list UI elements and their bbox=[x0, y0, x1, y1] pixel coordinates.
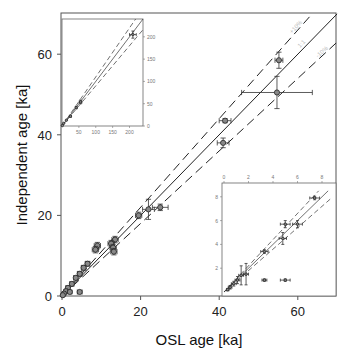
inset-full-range: 50100150200050100150200 bbox=[61, 19, 155, 135]
data-point bbox=[112, 237, 117, 242]
x-tick-label: 40 bbox=[212, 304, 226, 319]
data-point bbox=[296, 223, 299, 226]
data-point bbox=[221, 140, 226, 145]
data-point bbox=[276, 58, 281, 63]
data-point bbox=[222, 118, 227, 123]
data-point bbox=[226, 288, 229, 291]
inset-y-tick-label: 200 bbox=[147, 34, 156, 40]
data-point bbox=[65, 119, 67, 121]
data-point bbox=[111, 249, 116, 254]
x-axis-title: OSL age [ka] bbox=[156, 331, 243, 348]
data-point bbox=[158, 205, 163, 210]
inset-x-tick-label: 2 bbox=[247, 174, 250, 180]
x-tick-label: 0 bbox=[58, 304, 65, 319]
data-point bbox=[236, 279, 239, 282]
data-point bbox=[75, 107, 77, 109]
data-point bbox=[245, 273, 248, 276]
data-point bbox=[79, 101, 81, 103]
inset-x-tick-label: 6 bbox=[296, 174, 299, 180]
data-point bbox=[81, 265, 86, 270]
y-axis-title: Independent age [ka] bbox=[13, 85, 30, 226]
data-point bbox=[60, 293, 65, 298]
data-point bbox=[282, 237, 285, 240]
data-point bbox=[67, 289, 72, 294]
inset-x-tick-label: 0 bbox=[223, 174, 226, 180]
y-tick-label: 60 bbox=[38, 47, 52, 62]
data-point bbox=[263, 250, 266, 253]
data-point bbox=[263, 279, 266, 282]
inset-young-samples: 024682468 bbox=[215, 174, 336, 296]
data-point bbox=[274, 90, 279, 95]
inset-x-tick-label: 4 bbox=[272, 174, 275, 180]
inset-y-tick-label: 8 bbox=[215, 194, 218, 200]
data-point bbox=[136, 213, 141, 218]
inset-x-tick-label: 200 bbox=[125, 129, 134, 135]
inset-y-tick-label: 100 bbox=[147, 78, 156, 84]
data-point bbox=[61, 124, 63, 126]
x-tick-label: 60 bbox=[291, 304, 305, 319]
inset-y-tick-label: 150 bbox=[147, 56, 156, 62]
inset-y-tick-label: 6 bbox=[215, 218, 218, 224]
inset-x-tick-label: 150 bbox=[108, 129, 117, 135]
data-point bbox=[77, 289, 82, 294]
inset-x-tick-label: 50 bbox=[76, 129, 82, 135]
data-point bbox=[69, 115, 71, 117]
y-tick-label: 40 bbox=[38, 128, 52, 143]
data-point bbox=[284, 279, 287, 282]
data-point bbox=[233, 282, 236, 285]
inset-y-tick-label: 0 bbox=[147, 123, 150, 129]
data-point bbox=[146, 207, 151, 212]
y-tick-label: 20 bbox=[38, 208, 52, 223]
data-point bbox=[240, 274, 243, 277]
data-point bbox=[284, 223, 287, 226]
data-point bbox=[93, 247, 98, 252]
data-point bbox=[313, 197, 316, 200]
data-point bbox=[132, 33, 134, 35]
chart: 02040600204060 +10% 1:1 -10% 50100150200… bbox=[0, 0, 354, 357]
y-tick-label: 0 bbox=[45, 289, 52, 304]
data-point bbox=[73, 275, 78, 280]
inset-x-tick-label: 100 bbox=[92, 129, 101, 135]
inset-y-tick-label: 4 bbox=[215, 241, 218, 247]
x-tick-label: 20 bbox=[133, 304, 147, 319]
inset-x-tick-label: 8 bbox=[321, 174, 324, 180]
inset-y-tick-label: 50 bbox=[147, 101, 153, 107]
inset-y-tick-label: 2 bbox=[215, 265, 218, 271]
